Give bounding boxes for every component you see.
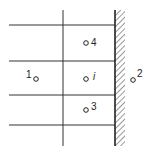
wall-hatching xyxy=(115,10,125,146)
node-2-circle-icon xyxy=(131,78,136,83)
grid-diagram: 1 4 i 3 2 xyxy=(0,0,151,155)
node-3-label: 3 xyxy=(91,101,97,112)
node-1-label: 1 xyxy=(26,69,32,80)
node-1-circle-icon xyxy=(34,77,39,82)
node-i-label: i xyxy=(93,71,96,82)
wall-boundary xyxy=(115,10,125,146)
node-i-circle-icon xyxy=(84,77,89,82)
node-2-label: 2 xyxy=(137,68,143,79)
node-4-circle-icon xyxy=(84,41,89,46)
node-3: 3 xyxy=(84,101,97,112)
node-1: 1 xyxy=(26,69,38,81)
node-4: 4 xyxy=(84,37,97,48)
horizontal-grid-lines xyxy=(9,25,115,125)
node-2: 2 xyxy=(131,68,143,82)
node-3-circle-icon xyxy=(84,108,89,113)
node-i: i xyxy=(84,71,96,82)
node-4-label: 4 xyxy=(91,37,97,48)
